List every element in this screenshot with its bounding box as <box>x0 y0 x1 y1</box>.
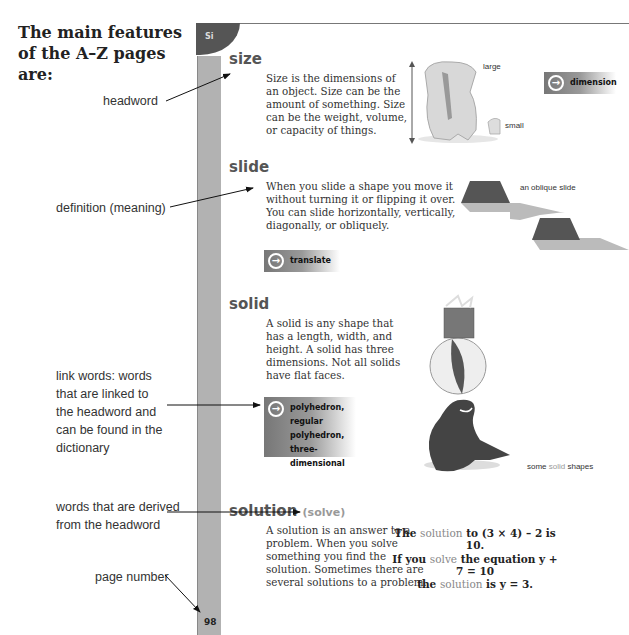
annotation-arrows <box>0 0 629 635</box>
arrow-headword <box>166 74 230 101</box>
arrow-page-number <box>165 575 200 612</box>
arrow-definition <box>170 188 253 207</box>
